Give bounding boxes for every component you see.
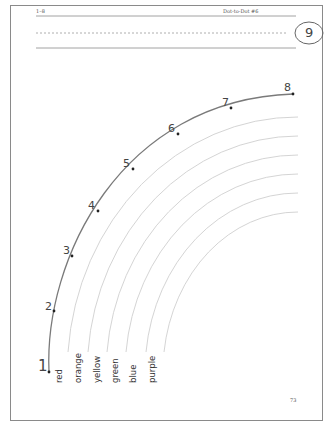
dot-label-7: 7 xyxy=(222,96,229,109)
color-label-yellow: yellow xyxy=(92,356,102,383)
dot-label-1: 1 xyxy=(38,357,48,375)
dot-label-6: 6 xyxy=(168,122,175,135)
page-number: 73 xyxy=(290,397,296,403)
arc-purple xyxy=(164,212,298,352)
worksheet-art xyxy=(0,0,330,427)
circle-number: 9 xyxy=(305,25,313,40)
color-label-blue: blue xyxy=(128,365,138,383)
inner-arcs xyxy=(68,117,298,352)
arc-yellow xyxy=(107,155,298,352)
arc-red xyxy=(68,117,298,352)
arc-orange xyxy=(88,136,298,352)
dot-label-4: 4 xyxy=(88,199,95,212)
color-label-purple: purple xyxy=(147,356,157,383)
dot-label-5: 5 xyxy=(123,157,130,170)
arc-green xyxy=(126,174,298,352)
dot-label-8: 8 xyxy=(284,81,291,94)
color-label-orange: orange xyxy=(73,353,83,383)
dot-label-2: 2 xyxy=(45,300,52,313)
arc-blue xyxy=(146,193,298,352)
dot-label-3: 3 xyxy=(63,244,70,257)
color-label-red: red xyxy=(54,369,64,383)
color-label-green: green xyxy=(110,358,120,383)
outer-arc xyxy=(49,94,293,372)
